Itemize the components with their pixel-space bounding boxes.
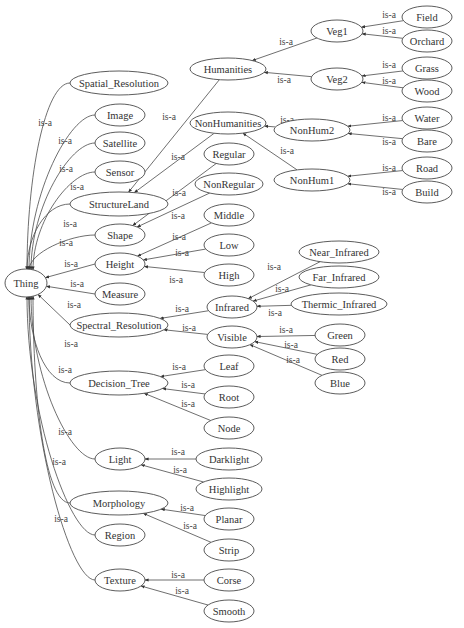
node-near-infrared[interactable]: Near_Infrared — [299, 241, 379, 263]
node-road[interactable]: Road — [402, 157, 452, 179]
node-label: Root — [219, 392, 240, 403]
node-image[interactable]: Image — [95, 104, 145, 126]
node-blue[interactable]: Blue — [315, 372, 365, 394]
node-shape[interactable]: Shape — [95, 224, 145, 246]
edge-label: is-a — [382, 26, 397, 36]
node-far-infrared[interactable]: Far_Infrared — [299, 266, 379, 288]
node-strip[interactable]: Strip — [204, 539, 254, 561]
node-label: Middle — [214, 210, 245, 221]
node-red[interactable]: Red — [315, 348, 365, 370]
node-orchard[interactable]: Orchard — [402, 30, 452, 52]
edge-veg1-to-humanities: is-a — [252, 37, 317, 61]
node-label: Infrared — [215, 302, 250, 313]
node-low[interactable]: Low — [204, 234, 254, 256]
node-leaf[interactable]: Leaf — [204, 355, 254, 377]
node-label: Orchard — [410, 36, 445, 47]
edge-label: is-a — [58, 365, 73, 375]
node-visible[interactable]: Visible — [207, 326, 257, 348]
edge-label: is-a — [58, 136, 73, 146]
node-root[interactable]: Root — [204, 386, 254, 408]
edge-highlight-to-light: is-a — [141, 465, 203, 482]
node-water[interactable]: Water — [402, 107, 452, 129]
node-label: Light — [109, 454, 132, 465]
edge-leaf-to-decision-tree: is-a — [160, 362, 205, 377]
node-humanities[interactable]: Humanities — [190, 58, 266, 80]
edge-label: is-a — [70, 279, 85, 289]
edge-label: is-a — [181, 380, 196, 390]
node-bare[interactable]: Bare — [402, 130, 452, 152]
node-label: Shape — [107, 230, 133, 241]
node-label: Spatial_Resolution — [79, 78, 160, 89]
node-high[interactable]: High — [204, 264, 254, 286]
node-label: Spectral_Resolution — [76, 320, 162, 331]
node-structureland[interactable]: StructureLand — [70, 192, 168, 216]
node-highlight[interactable]: Highlight — [196, 478, 262, 500]
edge-green-to-visible: is-a — [257, 325, 315, 337]
node-label: Sensor — [106, 167, 135, 178]
node-planar[interactable]: Planar — [204, 508, 254, 530]
edge-line — [257, 335, 315, 336]
edge-label: is-a — [382, 113, 397, 123]
node-smooth[interactable]: Smooth — [204, 600, 254, 622]
node-darklight[interactable]: Darklight — [196, 448, 262, 470]
edge-label: is-a — [64, 259, 79, 269]
edge-label: is-a — [284, 340, 299, 350]
edge-line — [144, 266, 204, 272]
node-veg1[interactable]: Veg1 — [311, 20, 363, 42]
edge-label: is-a — [70, 182, 85, 192]
node-corse[interactable]: Corse — [204, 569, 254, 591]
edge-high-to-height: is-a — [144, 266, 204, 285]
node-spatial-resolution[interactable]: Spatial_Resolution — [70, 71, 168, 95]
node-satellite[interactable]: Satellite — [95, 132, 145, 154]
edge-label: is-a — [382, 76, 397, 86]
edge-label: is-a — [279, 37, 294, 47]
node-thermic-infrared[interactable]: Thermic_Infrared — [291, 293, 387, 315]
node-label: Low — [219, 240, 239, 251]
node-texture[interactable]: Texture — [95, 569, 145, 591]
edge-line — [144, 393, 211, 420]
node-morphology[interactable]: Morphology — [70, 491, 168, 515]
edge-label: is-a — [162, 112, 177, 122]
node-label: StructureLand — [89, 199, 150, 210]
node-label: Node — [218, 423, 241, 434]
node-light[interactable]: Light — [95, 448, 145, 470]
node-label: Grass — [415, 63, 439, 74]
node-label: NonHum2 — [290, 125, 334, 136]
node-sensor[interactable]: Sensor — [95, 161, 145, 183]
node-label: Height — [106, 259, 135, 270]
node-nonhumanities[interactable]: NonHumanities — [190, 112, 266, 134]
node-label: Build — [415, 187, 439, 198]
edge-node-to-decision-tree: is-a — [144, 393, 211, 420]
node-green[interactable]: Green — [315, 324, 365, 346]
node-label: Corse — [217, 575, 242, 586]
edge-label: is-a — [58, 427, 73, 437]
node-label: Near_Infrared — [309, 247, 369, 258]
node-regular[interactable]: Regular — [204, 143, 254, 165]
node-label: Measure — [102, 289, 138, 300]
node-thing[interactable]: Thing — [5, 269, 47, 297]
edge-corse-to-texture: is-a — [145, 570, 204, 580]
node-middle[interactable]: Middle — [204, 204, 254, 226]
node-region[interactable]: Region — [95, 524, 145, 546]
ontology-diagram: is-ais-ais-ais-ais-ais-ais-ais-ais-ais-a… — [0, 0, 464, 628]
node-infrared[interactable]: Infrared — [207, 296, 257, 318]
node-decision-tree[interactable]: Decision_Tree — [70, 371, 168, 395]
node-spectral-resolution[interactable]: Spectral_Resolution — [70, 313, 168, 337]
node-node[interactable]: Node — [204, 417, 254, 439]
node-label: Strip — [219, 545, 239, 556]
node-height[interactable]: Height — [95, 253, 145, 275]
node-field[interactable]: Field — [402, 6, 452, 28]
edge-shape-to-thing: is-a — [29, 235, 95, 270]
edge-label: is-a — [38, 118, 53, 128]
node-grass[interactable]: Grass — [402, 57, 452, 79]
node-build[interactable]: Build — [402, 181, 452, 203]
edge-label: is-a — [175, 248, 190, 258]
node-nonregular[interactable]: NonRegular — [195, 173, 263, 195]
edge-grass-to-veg2: is-a — [362, 60, 403, 76]
edge-label: is-a — [59, 164, 74, 174]
node-veg2[interactable]: Veg2 — [311, 68, 363, 90]
node-nonhum2[interactable]: NonHum2 — [274, 119, 350, 141]
node-nonhum1[interactable]: NonHum1 — [274, 169, 350, 191]
node-wood[interactable]: Wood — [402, 80, 452, 102]
node-measure[interactable]: Measure — [95, 283, 145, 305]
